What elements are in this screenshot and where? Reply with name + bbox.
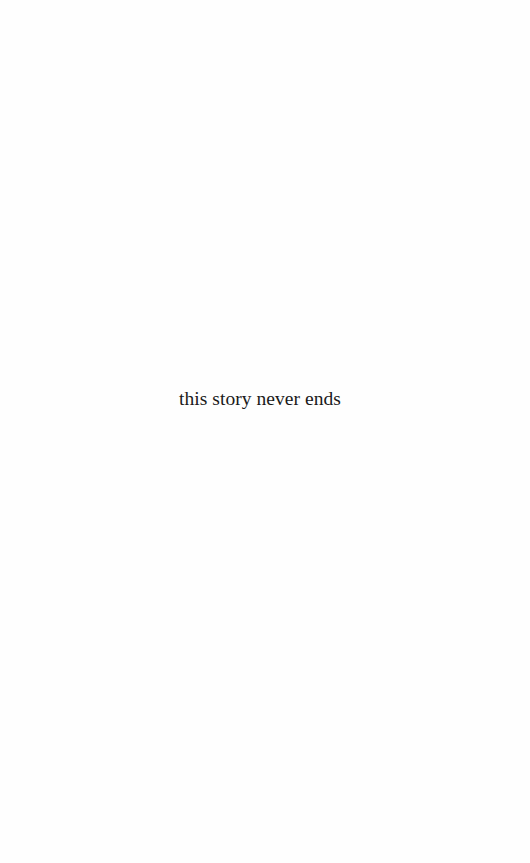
centered-epigraph-text: this story never ends xyxy=(0,386,520,412)
book-page: this story never ends xyxy=(0,0,530,863)
